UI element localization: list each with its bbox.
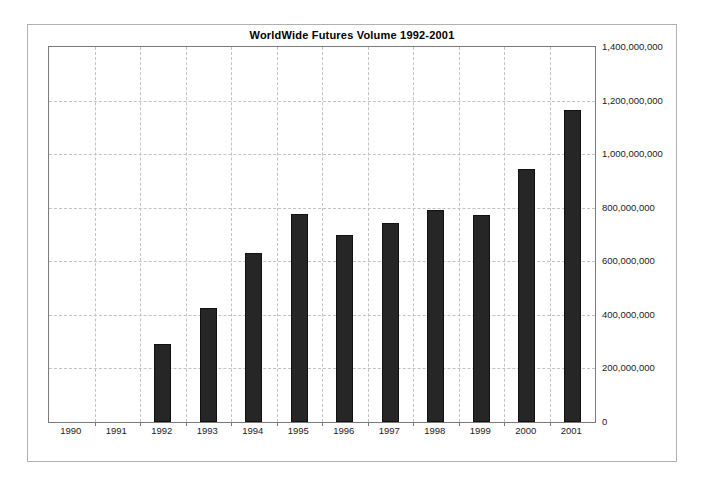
bar-2001[interactable]	[564, 110, 581, 422]
x-axis-tick-label-1999: 1999	[470, 425, 491, 436]
bar-1999[interactable]	[473, 215, 490, 422]
chart-title: WorldWide Futures Volume 1992-2001	[28, 29, 676, 41]
x-axis-tick-label-1998: 1998	[424, 425, 445, 436]
x-axis-tick-label-1993: 1993	[197, 425, 218, 436]
y-axis-tick-label: 1,000,000,000	[602, 148, 663, 159]
x-axis-tick-label-1997: 1997	[379, 425, 400, 436]
plot-area	[48, 46, 596, 423]
bar-1996[interactable]	[336, 235, 353, 422]
y-axis-tick-label: 400,000,000	[602, 308, 655, 319]
y-axis-tick-label: 1,200,000,000	[602, 94, 663, 105]
x-axis-tick-label-1996: 1996	[333, 425, 354, 436]
bar-1994[interactable]	[245, 253, 262, 422]
x-axis: 1990199119921993199419951996199719981999…	[48, 425, 594, 445]
x-axis-tick-label-1994: 1994	[242, 425, 263, 436]
x-axis-tick-label-1992: 1992	[151, 425, 172, 436]
bar-1997[interactable]	[382, 223, 399, 422]
x-axis-tick-label-1995: 1995	[288, 425, 309, 436]
bar-1998[interactable]	[427, 210, 444, 422]
bar-1992[interactable]	[154, 344, 171, 422]
x-axis-tick-label-2000: 2000	[515, 425, 536, 436]
x-axis-tick-label-2001: 2001	[561, 425, 582, 436]
bar-series	[49, 47, 595, 422]
x-axis-tick-label-1991: 1991	[106, 425, 127, 436]
bar-1993[interactable]	[200, 308, 217, 422]
y-axis: 0200,000,000400,000,000600,000,000800,00…	[602, 25, 678, 461]
x-axis-tick-label-1990: 1990	[60, 425, 81, 436]
chart-frame: WorldWide Futures Volume 1992-2001 0200,…	[27, 24, 677, 462]
y-axis-tick-label: 800,000,000	[602, 201, 655, 212]
bar-2000[interactable]	[518, 169, 535, 422]
y-axis-tick-label: 200,000,000	[602, 362, 655, 373]
y-axis-tick-label: 600,000,000	[602, 255, 655, 266]
bar-1995[interactable]	[291, 214, 308, 422]
y-axis-tick-label: 1,400,000,000	[602, 41, 663, 52]
y-axis-tick-label: 0	[602, 416, 607, 427]
